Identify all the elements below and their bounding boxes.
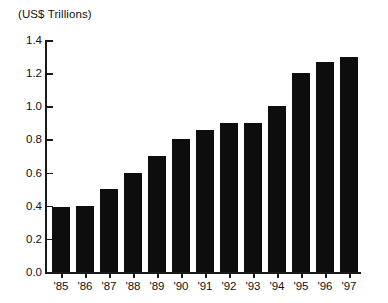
bar [316,62,335,272]
x-axis-tick-label: '90 [174,280,189,292]
x-axis-tick-label: '89 [150,280,165,292]
x-axis-tick [205,272,207,278]
x-axis-tick-label: '88 [126,280,141,292]
y-axis-tick [45,173,53,175]
plot-area [49,40,361,272]
bar [172,139,191,272]
bar [292,73,311,272]
y-axis-tick-label: 0.6 [26,167,42,179]
x-axis-tick-label: '94 [270,280,285,292]
bar [340,57,359,272]
x-axis-tick-label: '97 [342,280,357,292]
y-axis-unit-label: (US$ Trillions) [18,8,92,20]
y-axis-tick-label: 1.0 [26,100,42,112]
x-axis-tick-label: '92 [222,280,237,292]
x-axis-tick-label: '86 [78,280,93,292]
x-axis-tick-label: '93 [246,280,261,292]
bar [124,173,143,272]
x-axis-line [45,272,361,274]
bar [76,206,95,272]
y-axis-tick [45,73,53,75]
x-axis-tick [349,272,351,278]
x-axis-tick [61,272,63,278]
x-axis-tick-label: '91 [198,280,213,292]
bar [268,106,287,272]
bar [148,156,167,272]
x-axis-tick [325,272,327,278]
y-axis-tick-label: 0.8 [26,133,42,145]
y-axis-tick [45,106,53,108]
x-axis-tick [229,272,231,278]
bar-chart-figure: (US$ Trillions) 0.00.20.40.60.81.01.21.4… [0,0,388,303]
y-axis-tick-label: 0.2 [26,233,42,245]
x-axis-tick-label: '85 [54,280,69,292]
bar [52,207,71,272]
y-axis-tick [45,40,53,42]
y-axis-tick-label: 0.4 [26,200,42,212]
bar [220,123,239,272]
y-axis-tick-label-group: 0.00.20.40.60.81.01.21.4 [0,40,42,273]
x-axis-tick [301,272,303,278]
x-axis-tick [109,272,111,278]
bar [244,123,263,272]
x-axis-tick [85,272,87,278]
x-axis-tick [253,272,255,278]
bar [100,189,119,272]
bar [196,130,215,273]
x-axis-tick [133,272,135,278]
y-axis-tick [45,139,53,141]
x-axis-tick [157,272,159,278]
y-axis-tick [45,272,53,274]
y-axis-tick-label: 0.0 [26,266,42,278]
x-axis-tick [181,272,183,278]
x-axis-tick-label: '95 [294,280,309,292]
x-axis-tick [277,272,279,278]
x-axis-tick-label: '87 [102,280,117,292]
y-axis-tick-label: 1.4 [26,34,42,46]
x-axis-tick-label: '96 [318,280,333,292]
y-axis-tick-label: 1.2 [26,67,42,79]
